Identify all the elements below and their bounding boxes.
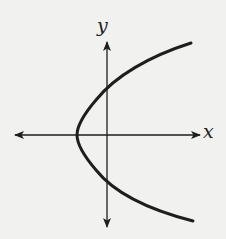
x-axis-label: x — [203, 122, 214, 141]
graph-canvas — [0, 0, 226, 239]
y-axis-label: y — [97, 16, 108, 35]
graph-figure: x y — [0, 0, 226, 239]
parabola-curve — [77, 43, 193, 221]
